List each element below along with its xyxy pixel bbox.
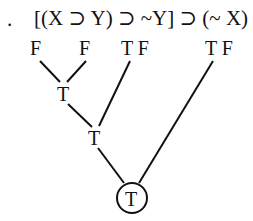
node-t1: T	[57, 84, 69, 104]
truth-tree-diagram: . [(X ⊃ Y) ⊃ ~Y] ⊃ (~ X) F F T F T F T T…	[0, 0, 253, 221]
edge-f1-t1	[40, 61, 60, 82]
edge-t1-t2	[68, 104, 92, 127]
edge-f2-t1	[67, 61, 86, 82]
leaf-value-2: F	[79, 38, 90, 58]
leaf-value-4: T F	[205, 38, 233, 58]
item-marker: .	[7, 9, 12, 30]
edge-tf-t2	[99, 61, 130, 126]
edge-t2-root	[98, 148, 124, 183]
leaf-value-1: F	[30, 38, 41, 58]
formula: [(X ⊃ Y) ⊃ ~Y] ⊃ (~ X)	[34, 8, 248, 29]
node-root: T	[125, 189, 137, 209]
leaf-value-3: T F	[121, 38, 149, 58]
node-t2: T	[88, 128, 100, 148]
edge-tf2-root	[139, 61, 213, 183]
